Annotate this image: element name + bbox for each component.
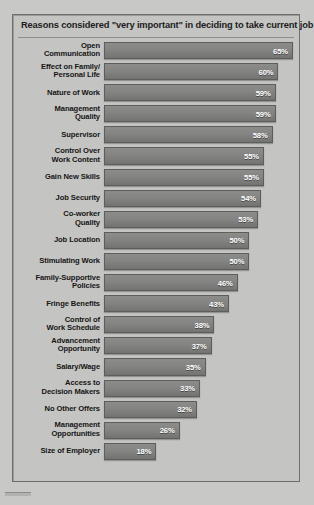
- bar: 50%: [104, 232, 249, 249]
- bar-row: Co-workerQuality53%: [13, 209, 299, 230]
- bar-row: OpenCommunication65%: [13, 40, 299, 61]
- bar-track: 58%: [104, 126, 293, 143]
- bar-row: Nature of Work59%: [13, 82, 299, 103]
- bar-track: 43%: [104, 295, 293, 312]
- bar-value-label: 60%: [259, 67, 274, 76]
- bar: 60%: [104, 63, 278, 80]
- bar-value-label: 50%: [229, 236, 244, 245]
- bar: 59%: [104, 105, 276, 122]
- bar-track: 54%: [104, 190, 293, 207]
- bar-category-label: Nature of Work: [13, 88, 100, 97]
- bar: 37%: [104, 337, 212, 354]
- bar-track: 18%: [104, 443, 293, 460]
- bar-track: 65%: [104, 42, 293, 59]
- bar-row: Access toDecision Makers33%: [13, 378, 299, 399]
- bar-track: 59%: [104, 105, 293, 122]
- bar-category-label: Job Location: [13, 236, 100, 245]
- bar-row: ManagementOpportunities26%: [13, 420, 299, 441]
- bar-value-label: 59%: [256, 88, 271, 97]
- bar-value-label: 43%: [209, 299, 224, 308]
- bar-category-label: Access toDecision Makers: [13, 379, 100, 396]
- bar-value-label: 46%: [218, 278, 233, 287]
- bar: 55%: [104, 169, 264, 186]
- bar: 18%: [104, 443, 156, 460]
- bar-row: Family-SupportivePolicies46%: [13, 272, 299, 293]
- bar-row: Stimulating Work50%: [13, 251, 299, 272]
- bar-row: Supervisor58%: [13, 124, 299, 145]
- bar: 35%: [104, 358, 206, 375]
- bar-row: Salary/Wage35%: [13, 356, 299, 377]
- bar-row: AdvancementOpportunity37%: [13, 335, 299, 356]
- bar-value-label: 33%: [180, 384, 195, 393]
- title-divider: [18, 37, 294, 38]
- bar-track: 50%: [104, 232, 293, 249]
- bar-category-label: ManagementOpportunities: [13, 422, 100, 439]
- bar-row: ManagementQuality59%: [13, 103, 299, 124]
- bar-value-label: 55%: [244, 173, 259, 182]
- bar-value-label: 58%: [253, 130, 268, 139]
- bar-track: 37%: [104, 337, 293, 354]
- bar-row: No Other Offers32%: [13, 399, 299, 420]
- bar-row: Job Location50%: [13, 230, 299, 251]
- bar-track: 38%: [104, 316, 293, 333]
- bar-track: 53%: [104, 211, 293, 228]
- bar-value-label: 26%: [160, 426, 175, 435]
- bar-row: Effect on Family/Personal Life60%: [13, 61, 299, 82]
- bar-category-label: No Other Offers: [13, 405, 100, 414]
- bar-category-label: Fringe Benefits: [13, 299, 100, 308]
- bar-category-label: Gain New Skills: [13, 173, 100, 182]
- bar-track: 26%: [104, 422, 293, 439]
- bar-row: Fringe Benefits43%: [13, 293, 299, 314]
- bar-track: 35%: [104, 358, 293, 375]
- bar-row: Size of Employer18%: [13, 441, 299, 462]
- page-footer-mark: [5, 492, 31, 496]
- bar-track: 59%: [104, 84, 293, 101]
- chart-title: Reasons considered "very important" in d…: [21, 20, 293, 30]
- bar-chart-plot-area: OpenCommunication65%Effect on Family/Per…: [13, 40, 299, 477]
- bar-category-label: Control OverWork Content: [13, 147, 100, 164]
- page-background: Reasons considered "very important" in d…: [0, 0, 314, 505]
- bar-track: 60%: [104, 63, 293, 80]
- bar-category-label: Job Security: [13, 194, 100, 203]
- bar-row: Control OverWork Content55%: [13, 145, 299, 166]
- bar: 53%: [104, 211, 258, 228]
- bar-track: 33%: [104, 380, 293, 397]
- bar-value-label: 55%: [244, 152, 259, 161]
- bar: 55%: [104, 147, 264, 164]
- bar: 33%: [104, 380, 200, 397]
- bar-value-label: 38%: [195, 320, 210, 329]
- bar-value-label: 59%: [256, 109, 271, 118]
- bar-value-label: 18%: [136, 447, 151, 456]
- bar-value-label: 35%: [186, 362, 201, 371]
- bar: 54%: [104, 190, 261, 207]
- bar-track: 55%: [104, 147, 293, 164]
- bar-value-label: 32%: [177, 405, 192, 414]
- bar-value-label: 50%: [229, 257, 244, 266]
- bar-category-label: AdvancementOpportunity: [13, 337, 100, 354]
- bar-value-label: 54%: [241, 194, 256, 203]
- bar-track: 55%: [104, 169, 293, 186]
- bar-value-label: 53%: [238, 215, 253, 224]
- bar-row: Job Security54%: [13, 188, 299, 209]
- bar: 50%: [104, 253, 249, 270]
- bar-category-label: ManagementQuality: [13, 105, 100, 122]
- bar-category-label: Salary/Wage: [13, 363, 100, 372]
- bar-row: Control ofWork Schedule38%: [13, 314, 299, 335]
- bar: 32%: [104, 401, 197, 418]
- bar-value-label: 65%: [273, 46, 288, 55]
- bar: 26%: [104, 422, 180, 439]
- bar-track: 32%: [104, 401, 293, 418]
- bar-track: 46%: [104, 274, 293, 291]
- bar: 65%: [104, 42, 293, 59]
- bar: 43%: [104, 295, 229, 312]
- bar-row: Gain New Skills55%: [13, 167, 299, 188]
- bar-track: 50%: [104, 253, 293, 270]
- bar: 46%: [104, 274, 238, 291]
- bar: 59%: [104, 84, 276, 101]
- bar-category-label: Co-workerQuality: [13, 211, 100, 228]
- bar-category-label: Family-SupportivePolicies: [13, 274, 100, 291]
- bar-value-label: 37%: [192, 341, 207, 350]
- bar-category-label: Effect on Family/Personal Life: [13, 63, 100, 80]
- bar: 58%: [104, 126, 273, 143]
- chart-panel: Reasons considered "very important" in d…: [12, 14, 300, 482]
